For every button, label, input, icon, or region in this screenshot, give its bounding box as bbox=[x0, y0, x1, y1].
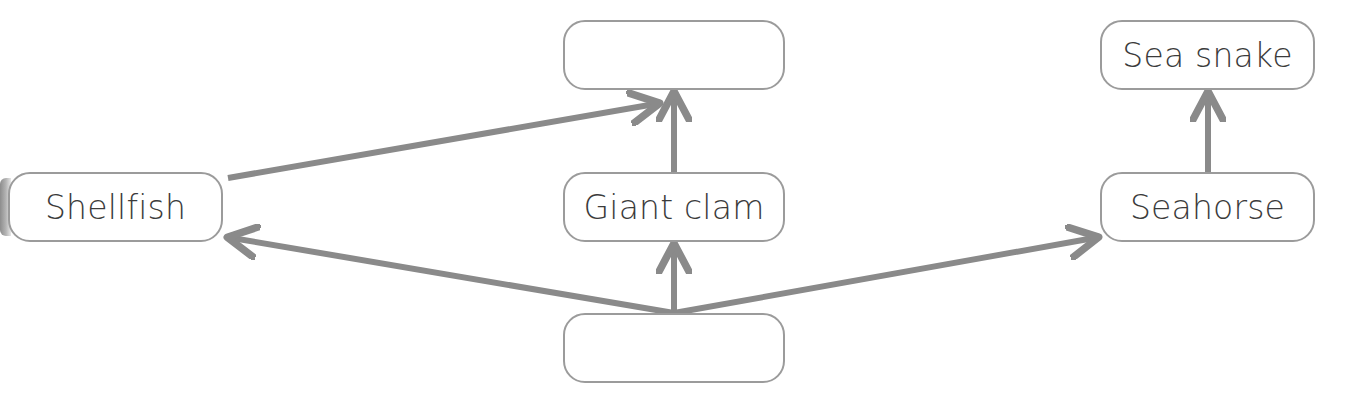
node-shellfish[interactable]: Shellfish bbox=[8, 172, 223, 242]
node-label-seahorse: Seahorse bbox=[1130, 191, 1285, 224]
node-giant-clam[interactable]: Giant clam bbox=[563, 172, 785, 242]
node-seahorse[interactable]: Seahorse bbox=[1100, 172, 1315, 242]
diagram-canvas: Shellfish Giant clam Sea snake Seahorse bbox=[0, 0, 1355, 406]
node-label-giant-clam: Giant clam bbox=[584, 191, 765, 224]
node-bottom-center-blank[interactable] bbox=[563, 313, 785, 383]
node-label-shellfish: Shellfish bbox=[45, 191, 186, 224]
connector-bottom-blank-to-seahorse bbox=[674, 238, 1094, 313]
connector-bottom-blank-to-shellfish bbox=[232, 238, 674, 313]
connector-shellfish-to-top-blank bbox=[228, 104, 655, 178]
node-label-sea-snake: Sea snake bbox=[1122, 39, 1292, 72]
node-sea-snake[interactable]: Sea snake bbox=[1100, 20, 1315, 90]
node-top-center-blank[interactable] bbox=[563, 20, 785, 90]
